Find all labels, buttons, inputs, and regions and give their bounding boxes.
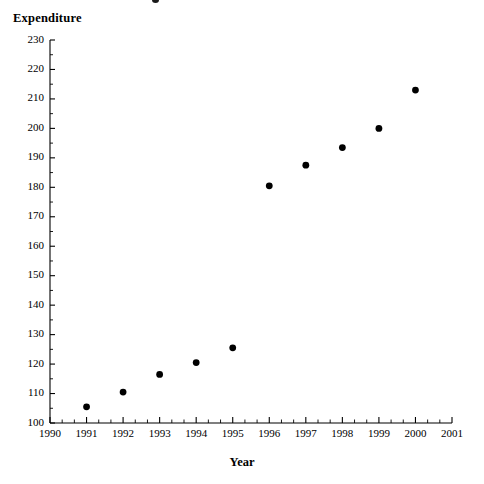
- y-tick-label: 150: [28, 268, 45, 280]
- x-tick-label: 1990: [39, 427, 62, 439]
- y-tick-label: 180: [28, 180, 45, 192]
- data-point: [193, 359, 200, 366]
- x-tick-label: 1991: [76, 427, 98, 439]
- y-tick-label: 210: [28, 91, 45, 103]
- data-point: [339, 144, 346, 151]
- y-tick-label: 120: [28, 357, 45, 369]
- x-tick-label: 1996: [258, 427, 281, 439]
- y-axis: 2302202102001901801701601501401301201101…: [28, 33, 56, 428]
- x-tick-label: 1998: [331, 427, 354, 439]
- data-point: [376, 125, 383, 132]
- data-point: [83, 403, 90, 410]
- y-tick-label: 130: [28, 327, 45, 339]
- x-axis-title: Year: [0, 455, 484, 470]
- x-tick-label: 1993: [149, 427, 172, 439]
- y-tick-label: 220: [28, 62, 45, 74]
- y-tick-label: 200: [28, 121, 45, 133]
- plot-area: 2302202102001901801701601501401301201101…: [0, 0, 484, 484]
- y-tick-label: 230: [28, 33, 45, 45]
- data-points: [83, 87, 419, 411]
- x-tick-label: 1994: [185, 427, 208, 439]
- x-tick-label: 1995: [222, 427, 245, 439]
- data-point: [120, 389, 127, 396]
- x-tick-label: 2001: [441, 427, 463, 439]
- y-tick-label: 140: [28, 298, 45, 310]
- y-tick-label: 190: [28, 150, 45, 162]
- y-tick-label: 160: [28, 239, 45, 251]
- y-tick-label: 170: [28, 209, 45, 221]
- y-tick-label: 100: [28, 416, 45, 428]
- data-point: [266, 182, 273, 189]
- x-tick-label: 1999: [368, 427, 391, 439]
- x-axis: 1990199119921993199419951996199719981999…: [39, 417, 463, 439]
- data-point: [229, 344, 236, 351]
- data-point: [156, 371, 163, 378]
- data-point: [302, 162, 309, 169]
- x-tick-label: 2000: [404, 427, 427, 439]
- y-tick-label: 110: [28, 386, 45, 398]
- scatter-chart: Expenditure 2302202102001901801701601501…: [0, 0, 484, 484]
- x-tick-label: 1992: [112, 427, 134, 439]
- x-tick-label: 1997: [295, 427, 318, 439]
- data-point: [412, 87, 419, 94]
